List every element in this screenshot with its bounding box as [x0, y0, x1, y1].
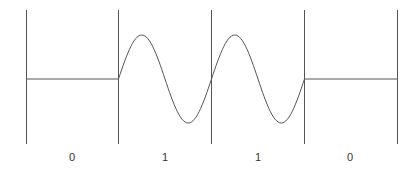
- waveform-diagram: [0, 0, 418, 173]
- bit-label-3: 0: [340, 151, 360, 163]
- bit-label-0: 0: [62, 151, 82, 163]
- bit-label-2: 1: [248, 151, 268, 163]
- bit-label-1: 1: [155, 151, 175, 163]
